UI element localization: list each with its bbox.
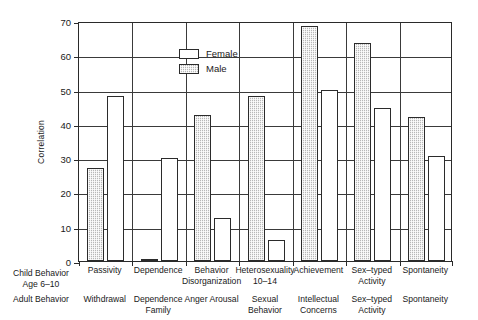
y-tick-40 (74, 126, 79, 127)
bar-male-group-5 (354, 43, 371, 261)
gridline-10 (79, 229, 451, 230)
y-tick-label-50: 50 (60, 87, 71, 97)
bar-female-group-6 (428, 156, 445, 261)
gridline-40 (79, 126, 451, 127)
bar-female-group-1 (161, 158, 178, 261)
chart-legend: Female Male (179, 49, 238, 74)
gridline-60 (79, 57, 451, 58)
row-header-adult-behavior: Adult Behavior (4, 294, 78, 305)
y-tick-label-40: 40 (60, 121, 71, 131)
y-tick-label-10: 10 (60, 224, 71, 234)
bar-female-group-5 (374, 108, 391, 261)
y-tick-30 (74, 160, 79, 161)
y-tick-label-60: 60 (60, 53, 71, 63)
gridline-30 (79, 160, 451, 161)
y-tick-label-20: 20 (60, 190, 71, 200)
child-category-label-6: Spontaneity (393, 265, 458, 276)
bar-female-group-2 (214, 218, 231, 261)
legend-swatch-male-icon (179, 64, 199, 74)
y-tick-70 (74, 23, 79, 24)
group-separator-5 (346, 23, 347, 261)
legend-label-female: Female (206, 49, 238, 59)
bar-male-group-6 (408, 117, 425, 261)
bar-female-group-0 (107, 96, 124, 261)
bar-female-group-3 (268, 240, 285, 261)
y-tick-label-30: 30 (60, 155, 71, 165)
bar-male-group-1 (141, 259, 158, 261)
y-tick-label-70: 70 (60, 18, 71, 28)
correlation-bar-chart-figure: 010203040506070 Female Male Correlation … (0, 0, 478, 320)
group-separator-3 (239, 23, 240, 261)
group-separator-6 (400, 23, 401, 261)
plot-area: 010203040506070 Female Male (78, 22, 452, 262)
legend-swatch-female-icon (179, 49, 199, 59)
group-separator-4 (293, 23, 294, 261)
bar-male-group-3 (248, 96, 265, 261)
bar-female-group-4 (321, 90, 338, 261)
gridline-20 (79, 194, 451, 195)
group-separator-1 (132, 23, 133, 261)
bar-male-group-4 (301, 26, 318, 261)
y-tick-10 (74, 229, 79, 230)
legend-item-male: Male (179, 64, 238, 74)
gridline-50 (79, 92, 451, 93)
adult-category-label-6: Spontaneity (393, 294, 458, 305)
y-tick-50 (74, 92, 79, 93)
y-tick-60 (74, 57, 79, 58)
legend-label-male: Male (206, 64, 227, 74)
y-axis-title: Correlation (36, 120, 46, 164)
legend-item-female: Female (179, 49, 238, 59)
bar-male-group-2 (194, 115, 211, 261)
y-tick-20 (74, 194, 79, 195)
bar-male-group-0 (87, 168, 104, 261)
y-tick-label-0: 0 (66, 258, 71, 268)
row-header-child-behavior: Child Behavior Age 6–10 (4, 268, 78, 290)
